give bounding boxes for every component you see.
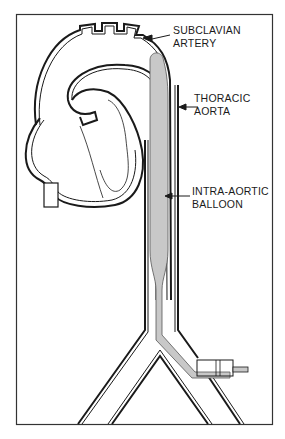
label-intra-aortic-balloon: INTRA-AORTIC BALLOON — [192, 185, 272, 210]
catheter-tail — [233, 367, 248, 372]
heart — [26, 89, 143, 207]
label-thoracic-aorta: THORACIC AORTA — [194, 92, 254, 117]
label-subclavian-artery: SUBCLAVIAN ARTERY — [173, 24, 244, 49]
iabp-diagram: SUBCLAVIAN ARTERY THORACIC AORTA INTRA-A… — [0, 0, 285, 439]
